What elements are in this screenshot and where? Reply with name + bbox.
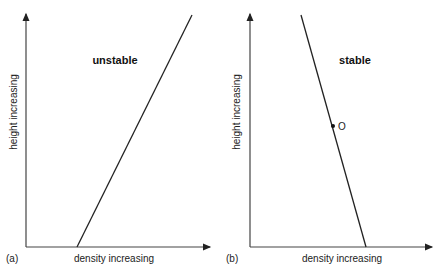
panel-title-b: stable: [339, 54, 371, 66]
x-axis-label-a: density increasing: [74, 253, 154, 264]
y-axis-label-a: height increasing: [8, 74, 19, 150]
panel-tag-b: (b): [226, 253, 238, 264]
density-profile-line-a: [77, 15, 192, 247]
y-axis-label-b: height increasing: [231, 74, 242, 150]
stability-diagram: unstable (a) density increasing height i…: [0, 0, 440, 265]
point-o-marker: [331, 124, 335, 128]
point-o-label: O: [338, 121, 346, 132]
density-profile-line-b: [301, 15, 366, 247]
panel-tag-a: (a): [6, 253, 18, 264]
panel-title-a: unstable: [92, 54, 137, 66]
panel-b: O stable (b) density increasing height i…: [226, 14, 432, 264]
panel-a: unstable (a) density increasing height i…: [6, 14, 210, 264]
x-axis-label-b: density increasing: [302, 253, 382, 264]
